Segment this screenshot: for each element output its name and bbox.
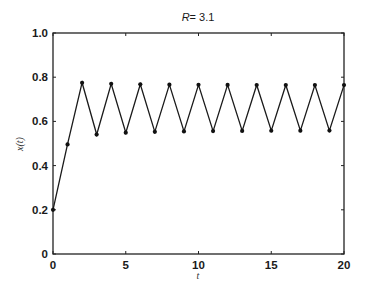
y-axis-label: x(t) [14, 136, 26, 152]
x-tick-label: 5 [123, 259, 130, 271]
x-tick-label: 20 [338, 259, 351, 271]
data-point [51, 208, 55, 212]
series [51, 81, 346, 212]
data-point [313, 83, 317, 87]
data-point [153, 130, 157, 134]
data-point [269, 129, 273, 133]
x-tick-label: 0 [50, 259, 56, 271]
data-point [65, 142, 69, 146]
data-point [138, 82, 142, 86]
x-tick-label: 15 [265, 259, 278, 271]
data-point [226, 83, 230, 87]
data-point [342, 83, 346, 87]
tick-labels: 0510152000.20.40.60.81.0 [32, 27, 350, 271]
data-point [109, 82, 113, 86]
data-point [182, 129, 186, 133]
data-point [255, 83, 259, 87]
title-value: = 3.1 [190, 11, 215, 23]
y-tick-label: 0.8 [32, 71, 49, 83]
data-point [298, 129, 302, 133]
data-point [211, 129, 215, 133]
x-axis-label: t [197, 270, 200, 281]
data-point [240, 129, 244, 133]
data-point [196, 83, 200, 87]
data-point [284, 83, 288, 87]
y-tick-label: 0 [42, 248, 48, 260]
series-line [53, 83, 344, 210]
plot-frame [53, 33, 344, 254]
title-variable: R [182, 11, 190, 23]
axes [53, 33, 344, 254]
y-tick-label: 1.0 [32, 27, 48, 39]
data-point [124, 131, 128, 135]
ticks [53, 33, 344, 254]
data-point [80, 81, 84, 85]
y-tick-label: 0.2 [32, 204, 48, 216]
data-point [167, 83, 171, 87]
y-tick-label: 0.6 [32, 115, 48, 127]
chart: 0510152000.20.40.60.81.0 R= 3.1 t x(t) [0, 0, 367, 293]
chart-title: R= 3.1 [182, 11, 215, 23]
data-point [327, 129, 331, 133]
data-point [95, 132, 99, 136]
y-tick-label: 0.4 [32, 160, 49, 172]
